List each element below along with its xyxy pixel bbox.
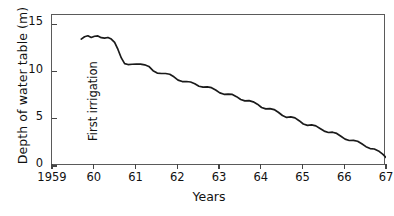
x-tick-label: 60 bbox=[86, 172, 101, 184]
y-tick-label: 0 bbox=[36, 158, 43, 170]
x-tick-label: 62 bbox=[170, 172, 185, 184]
y-axis-label: Depth of water table (m) bbox=[15, 6, 30, 166]
x-axis-label: Years bbox=[0, 189, 394, 204]
y-tick-label: 15 bbox=[28, 16, 43, 28]
x-axis-label-text: Years bbox=[193, 189, 226, 204]
data-line-series bbox=[52, 15, 386, 166]
chart-figure: Depth of water table (m) Years 051015 19… bbox=[0, 0, 394, 216]
x-tick-label: 65 bbox=[295, 172, 310, 184]
y-tick-label: 5 bbox=[36, 111, 43, 123]
x-tick-label: 64 bbox=[253, 172, 268, 184]
x-tick-label: 63 bbox=[212, 172, 227, 184]
y-tick-label: 10 bbox=[28, 64, 43, 76]
x-tick-label: 67 bbox=[379, 172, 394, 184]
x-tick-label: 61 bbox=[128, 172, 143, 184]
x-tick-label: 66 bbox=[337, 172, 352, 184]
x-tick-label: 1959 bbox=[37, 172, 66, 184]
water-table-curve bbox=[81, 36, 386, 158]
plot-area: 051015 19596061626364656667 First irriga… bbox=[51, 14, 385, 165]
